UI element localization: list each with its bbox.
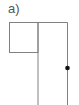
left-box xyxy=(10,23,39,53)
diagram-canvas xyxy=(0,0,79,105)
point-dot xyxy=(65,66,70,71)
